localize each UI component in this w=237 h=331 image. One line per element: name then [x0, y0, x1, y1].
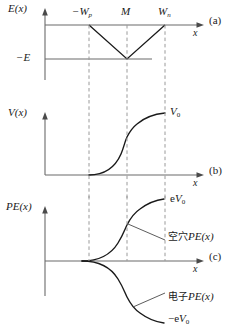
label-hole-pe: 空穴PE(x)	[168, 227, 214, 243]
electron-label-leader-line	[133, 293, 165, 307]
panel-c-graphics	[42, 196, 204, 323]
label-ev0: eV0	[170, 193, 185, 206]
label-minus-wp-main: −W	[72, 5, 89, 17]
label-electron-pe-chinese: 电子	[168, 291, 188, 302]
panel-a-y-axis-label: E(x)	[8, 3, 27, 14]
label-v0-main: V	[170, 105, 177, 117]
label-minus-e: −E	[16, 52, 30, 63]
label-v0: V0	[170, 106, 180, 119]
panel-b-x-arrow	[197, 172, 205, 178]
panel-c-tag: (c)	[209, 251, 221, 262]
label-electron-pe-symbol: PE(x)	[188, 290, 214, 302]
panel-a-x-axis-label: x	[193, 28, 197, 38]
hole-label-leader-line	[128, 224, 165, 240]
label-minus-wp-subscript: p	[89, 11, 93, 19]
panel-c-y-axis-label: PE(x)	[6, 201, 32, 212]
label-wn-main: W	[158, 5, 167, 17]
label-electron-pe: 电子PE(x)	[168, 287, 214, 303]
panel-c-x-arrow	[197, 258, 205, 264]
panel-b-y-axis-label: V(x)	[8, 107, 27, 118]
label-hole-pe-symbol: PE(x)	[188, 230, 214, 242]
label-ev0-subscript: 0	[182, 198, 186, 206]
panel-b-tag: (b)	[209, 165, 222, 176]
figure-container: E(x) x (a) −Wp M Wn −E V(x) x (b) V0 PE(…	[0, 0, 237, 331]
panel-a-y-arrow	[42, 8, 48, 16]
panel-c-y-arrow	[42, 206, 48, 214]
panel-a-graphics	[42, 8, 204, 98]
label-minus-ev0-v: V	[179, 312, 186, 324]
panel-c-electron-pe-curve	[82, 261, 164, 323]
panel-c-x-axis-label: x	[193, 264, 197, 274]
label-minus-ev0: −eV0	[168, 313, 189, 326]
label-hole-pe-chinese: 空穴	[168, 231, 188, 242]
label-minus-wp: −Wp	[72, 6, 92, 19]
label-wn: Wn	[158, 6, 171, 19]
panel-b-x-axis-label: x	[193, 178, 197, 188]
label-v0-subscript: 0	[177, 111, 181, 119]
panel-a-field-curve	[89, 25, 165, 59]
label-wn-subscript: n	[167, 11, 171, 19]
panel-a-tag: (a)	[209, 15, 221, 26]
figure-canvas	[0, 0, 237, 331]
label-minus-ev0-subscript: 0	[186, 318, 190, 326]
panel-c-hole-pe-curve	[82, 199, 164, 261]
panel-b-y-arrow	[42, 112, 48, 120]
label-ev0-v: V	[175, 192, 182, 204]
label-minus-ev0-e: −e	[168, 312, 179, 324]
label-m: M	[121, 6, 130, 17]
panel-a-x-arrow	[197, 22, 205, 28]
